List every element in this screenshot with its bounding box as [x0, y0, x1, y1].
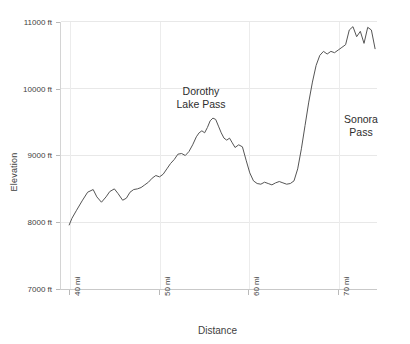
- elevation-line: [69, 27, 375, 225]
- elevation-profile-chart: Elevation 11000 ft 10000 ft 9000 ft 8000…: [0, 0, 410, 344]
- annotation-sonora-pass: Sonora Pass: [331, 113, 391, 139]
- elevation-line-svg: [0, 0, 410, 344]
- x-axis-title: Distance: [55, 325, 380, 336]
- annotation-dorothy-lake-pass: Dorothy Lake Pass: [158, 85, 244, 111]
